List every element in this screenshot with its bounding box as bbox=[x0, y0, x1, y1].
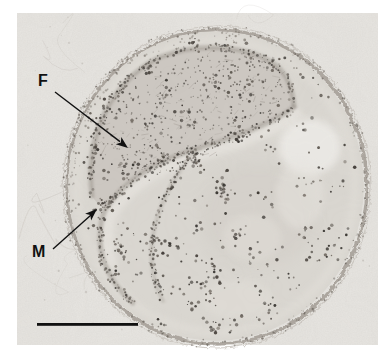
label-f: F bbox=[38, 72, 48, 89]
scale-bar bbox=[37, 323, 138, 326]
label-m: M bbox=[32, 243, 45, 260]
photo-mottle bbox=[17, 13, 378, 345]
electron-micrograph: F M bbox=[0, 0, 384, 359]
figure-page: F M bbox=[0, 0, 384, 359]
